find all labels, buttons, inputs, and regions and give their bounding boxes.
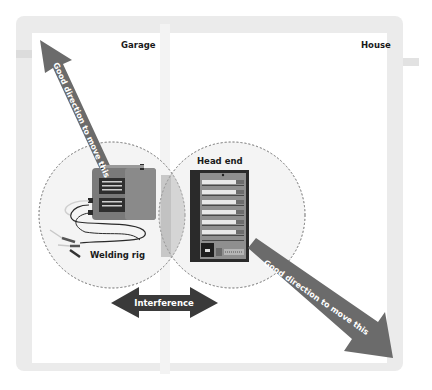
welding-rig-label: Welding rig (90, 250, 145, 260)
head-end-label: Head end (197, 156, 243, 166)
interference-text: Interference (134, 298, 194, 308)
head-end-cabinet-icon (190, 170, 249, 262)
diagram-graphics: Good direction to move this Good directi… (0, 0, 432, 390)
arrow-down-right-text: Good direction to move this (262, 258, 371, 337)
